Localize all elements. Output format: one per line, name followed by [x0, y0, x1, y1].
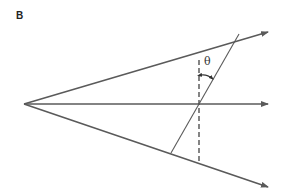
ray-diagram: [0, 0, 282, 195]
angle-theta-label: θ: [204, 55, 211, 68]
slanted-line: [171, 34, 239, 153]
angle-arc-icon: [201, 75, 213, 79]
lower-ray: [24, 104, 268, 187]
upper-ray: [24, 32, 268, 104]
